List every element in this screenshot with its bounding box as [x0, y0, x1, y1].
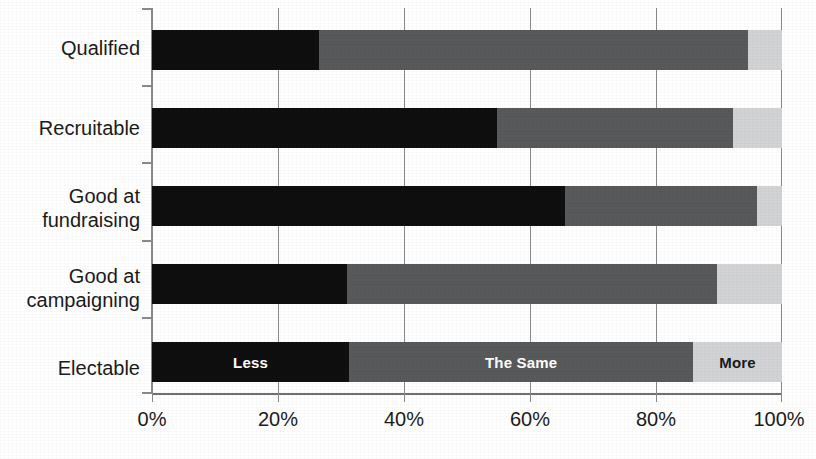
x-axis-label-20: 20%	[258, 408, 298, 431]
bar-segment-good-at-fundraising-less	[152, 186, 565, 226]
category-label-electable: Electable	[58, 356, 140, 380]
category-label-good-at-fundraising: Good at fundraising	[42, 184, 140, 232]
legend-label-the-same: The Same	[485, 354, 557, 371]
x-axis-label-100: 100%	[753, 408, 804, 431]
category-label-qualified: Qualified	[61, 36, 140, 60]
bar-segment-electable-more: More	[693, 342, 782, 382]
bar-segment-electable-less: Less	[152, 342, 349, 382]
bar-segment-good-at-fundraising-more	[757, 186, 782, 226]
x-axis-line	[152, 393, 782, 395]
x-axis-label-0: 0%	[138, 408, 167, 431]
x-axis-tick-80	[656, 393, 657, 402]
x-axis-label-80: 80%	[636, 408, 676, 431]
x-axis-tick-0	[152, 393, 153, 402]
x-axis-label-40: 40%	[384, 408, 424, 431]
bar-segment-recruitable-less	[152, 108, 497, 148]
bar-segment-good-at-campaigning-less	[152, 264, 347, 304]
bar-segment-electable-the-same: The Same	[349, 342, 693, 382]
bar-segment-qualified-more	[748, 30, 782, 70]
bar-segment-qualified-less	[152, 30, 319, 70]
plot-area: Less The Same More	[152, 8, 782, 393]
stacked-bar-chart: Qualified Recruitable Good at fundraisin…	[0, 0, 816, 459]
bar-row-good-at-fundraising	[152, 186, 782, 226]
bar-segment-recruitable-more	[733, 108, 782, 148]
bar-segment-good-at-campaigning-more	[717, 264, 782, 304]
bar-segment-qualified-the-same	[319, 30, 748, 70]
legend-label-less: Less	[233, 354, 268, 371]
bar-segment-recruitable-the-same	[497, 108, 733, 148]
category-label-good-at-campaigning: Good at campaigning	[27, 264, 140, 312]
bar-row-electable: Less The Same More	[152, 342, 782, 382]
x-axis-tick-20	[278, 393, 279, 402]
category-label-recruitable: Recruitable	[39, 116, 140, 140]
bar-segment-good-at-fundraising-the-same	[565, 186, 757, 226]
x-axis-tick-40	[404, 393, 405, 402]
bar-row-qualified	[152, 30, 782, 70]
x-axis-tick-100	[781, 393, 782, 402]
x-axis-tick-60	[530, 393, 531, 402]
x-axis-label-60: 60%	[510, 408, 550, 431]
bar-row-good-at-campaigning	[152, 264, 782, 304]
bar-row-recruitable	[152, 108, 782, 148]
legend-label-more: More	[719, 354, 756, 371]
bar-segment-good-at-campaigning-the-same	[347, 264, 717, 304]
